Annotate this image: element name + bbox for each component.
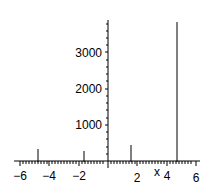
x-axis-label: x [154, 165, 160, 179]
svg-text:−6: −6 [13, 169, 27, 183]
svg-text:4: 4 [164, 169, 171, 183]
svg-text:3000: 3000 [75, 46, 102, 60]
svg-text:1000: 1000 [75, 118, 102, 132]
svg-text:2: 2 [134, 171, 141, 185]
chart: −6 −4 −2 2 4 6 x 1000 2000 3000 [0, 0, 214, 190]
svg-text:6: 6 [193, 171, 200, 185]
svg-text:2000: 2000 [75, 82, 102, 96]
y-tick-labels: 1000 2000 3000 [75, 46, 102, 132]
x-tick-labels: −6 −4 −2 2 4 6 [13, 169, 200, 185]
svg-text:−4: −4 [42, 169, 56, 183]
svg-text:−2: −2 [72, 169, 86, 183]
